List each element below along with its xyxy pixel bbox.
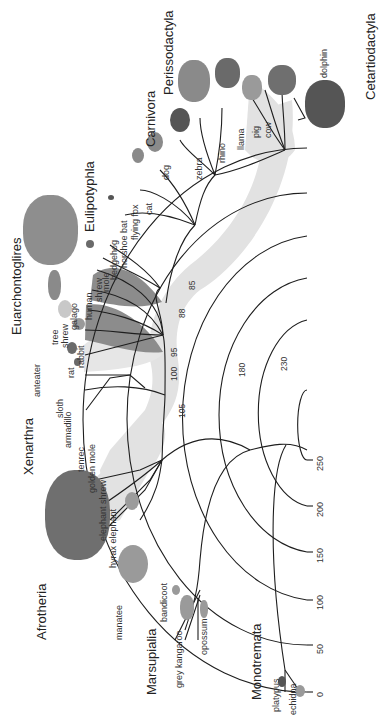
species-label-rhino: rhino: [218, 143, 227, 163]
species-label-pig: pig: [252, 126, 261, 138]
brain-flying-fox: [132, 148, 144, 163]
node-label-180: 180: [238, 363, 247, 377]
brain-dog: [170, 108, 190, 132]
species-label-sloth: sloth: [56, 399, 65, 418]
species-label-golden-mole: golden mole: [88, 444, 97, 493]
species-label-manatee: manatee: [115, 605, 124, 640]
species-label-zebra: zebra: [195, 157, 204, 180]
brain-dolphin: [305, 80, 345, 128]
tick-label-0: 0: [316, 692, 325, 697]
group-label-euarchontoglires: Euarchontoglires: [10, 237, 23, 335]
species-label-llama: llama: [237, 128, 246, 150]
group-label-xenarthra: Xenarthra: [22, 418, 35, 475]
group-label-eulipotyphla: Eulipotyphla: [83, 161, 96, 232]
group-label-cetartiodactyla: Cetartiodactyla: [364, 13, 377, 100]
species-label-cow: cow: [264, 122, 273, 138]
species-label-elephant-shrew: elephant shrew: [99, 480, 108, 541]
species-label-rat: rat: [67, 367, 76, 378]
tick-label-150: 150: [316, 548, 325, 563]
species-label-dolphin: dolphin: [320, 49, 329, 78]
species-label-rabbit: rabbit: [77, 345, 86, 368]
brain-human: [23, 195, 78, 265]
node-label-88: 88: [178, 309, 187, 318]
group-label-marsupialia: Marsupialia: [145, 629, 158, 695]
species-label-galago: galago: [70, 303, 79, 330]
species-label-horshoe-bat: horshoe bat: [120, 220, 129, 268]
group-label-perissodactyla: Perissodactyla: [162, 10, 175, 95]
node-label-85: 85: [188, 281, 197, 290]
brain-rhino: [215, 58, 240, 88]
node-label-95: 95: [170, 348, 179, 357]
group-label-carnivora: Carnivora: [144, 91, 157, 147]
species-label-bandicoot: bandicoot: [160, 583, 169, 622]
species-label-grey-kangaroo: grey kangaroo: [175, 630, 184, 688]
species-label-armadillo: armadillo: [64, 411, 73, 448]
brain-manatee: [118, 545, 148, 583]
node-label-105: 105: [178, 404, 187, 418]
species-label-hyrax-elephant: hyrax elephant: [109, 509, 118, 568]
brain-kangaroo: [180, 595, 194, 620]
species-label-anteater: anteater: [33, 364, 42, 397]
species-label-human: human: [85, 292, 94, 320]
species-label-cat: cat: [145, 203, 154, 215]
tick-label-200: 200: [316, 502, 325, 517]
species-label-echidna: echidna: [289, 683, 298, 715]
brain-galago: [86, 240, 94, 248]
brain-cow: [268, 65, 296, 95]
species-label-tenrec: tenrec: [77, 447, 86, 472]
species-label-dog: dog: [162, 165, 171, 180]
group-label-afrotheria: Afrotheria: [35, 584, 48, 640]
species-label-hedgehog: hedgehog: [110, 240, 119, 280]
brain-hyrax: [125, 492, 139, 510]
brain-hedgehog: [108, 195, 114, 200]
species-label-flying-fox: flying fox: [131, 204, 140, 240]
node-label-100: 100: [170, 367, 179, 381]
species-label-opossum: opossum: [200, 618, 209, 655]
tick-label-250: 250: [316, 456, 325, 471]
brain-bandicoot: [172, 585, 180, 595]
brain-zebra: [178, 60, 210, 102]
brain-opossum: [200, 600, 208, 618]
node-label-230: 230: [280, 357, 289, 371]
brain-anteater: [48, 270, 61, 300]
group-label-monotremata: Monotremata: [250, 623, 263, 700]
tick-label-100: 100: [316, 595, 325, 610]
species-label-platypus: platypus: [272, 678, 281, 712]
tick-label-50: 50: [316, 644, 325, 654]
species-label-tree: tree: [51, 329, 60, 345]
brain-pig: [242, 75, 262, 100]
